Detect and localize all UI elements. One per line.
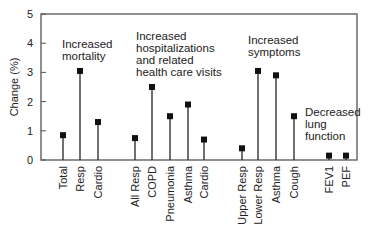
data-point: [77, 68, 83, 160]
marker-square: [239, 145, 245, 151]
x-tick-label: Upper Resp: [236, 166, 248, 225]
data-point: [255, 68, 261, 160]
marker-square: [95, 119, 101, 125]
marker-square: [60, 132, 66, 138]
y-tick-label: 5: [27, 8, 33, 20]
x-tick-label: Total: [57, 166, 69, 189]
data-point: [167, 113, 173, 160]
marker-square: [167, 113, 173, 119]
y-axis-label: Change (%): [8, 58, 20, 117]
data-point: [291, 113, 297, 160]
y-axis: 012345: [27, 8, 46, 166]
group-annotation: Increasedsymptoms: [248, 34, 301, 58]
x-tick-label: Cardio: [198, 166, 210, 198]
y-tick-label: 4: [27, 37, 33, 49]
marker-square: [132, 135, 138, 141]
x-tick-label: All Resp: [129, 166, 141, 207]
x-tick-label: Pneumonia: [164, 165, 176, 222]
marker-square: [343, 153, 349, 159]
lollipop-chart: 012345 TotalRespCardioAll RespCOPDPneumo…: [0, 0, 376, 234]
data-point: [239, 145, 245, 160]
group-annotation: Increasedhospitalizationsand relatedheal…: [136, 30, 222, 78]
x-tick-label: COPD: [146, 166, 158, 198]
x-tick-label: Asthma: [270, 165, 282, 203]
marker-square: [77, 68, 83, 74]
x-tick-label: Resp: [74, 166, 86, 192]
y-tick-label: 1: [27, 125, 33, 137]
data-point: [60, 132, 66, 160]
x-tick-label: Cough: [288, 166, 300, 198]
marker-square: [149, 84, 155, 90]
data-point: [326, 153, 332, 160]
group-annotation: Decreasedlungfunction: [305, 106, 361, 142]
marker-square: [273, 72, 279, 78]
data-point: [273, 72, 279, 160]
y-tick-label: 2: [27, 96, 33, 108]
data-point: [185, 102, 191, 160]
marker-square: [326, 153, 332, 159]
marker-square: [291, 113, 297, 119]
data-point: [95, 119, 101, 160]
x-tick-label: PEF: [340, 166, 352, 188]
data-point: [149, 84, 155, 160]
data-point: [343, 153, 349, 160]
marker-square: [185, 102, 191, 108]
x-tick-label: Asthma: [182, 165, 194, 203]
x-tick-label: Lower Resp: [252, 166, 264, 225]
y-tick-label: 0: [27, 154, 33, 166]
marker-square: [255, 68, 261, 74]
data-point: [132, 135, 138, 160]
x-tick-label: Cardio: [92, 166, 104, 198]
x-tick-label: FEV1: [323, 166, 335, 194]
y-tick-label: 3: [27, 66, 33, 78]
marker-square: [201, 137, 207, 143]
data-point: [201, 137, 207, 160]
group-annotations: IncreasedmortalityIncreasedhospitalizati…: [62, 30, 361, 142]
group-annotation: Increasedmortality: [62, 38, 113, 62]
x-axis-labels: TotalRespCardioAll RespCOPDPneumoniaAsth…: [57, 165, 352, 225]
